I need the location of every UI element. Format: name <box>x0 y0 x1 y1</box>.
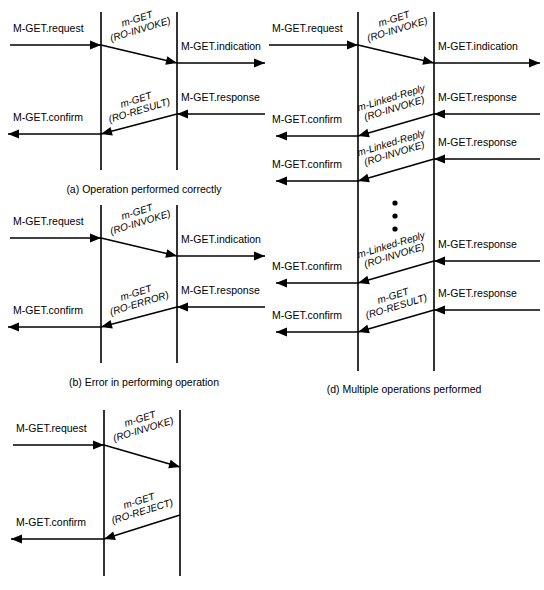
m-get-ro-error-arrowhead <box>101 320 113 329</box>
m-get-ro-invoke-label: m-GET(RO-INVOKE) <box>105 4 171 43</box>
panel-b: M-GET.requestm-GET(RO-INVOKE)M-GET.indic… <box>8 197 265 388</box>
figure-canvas: M-GET.requestm-GET(RO-INVOKE)M-GET.indic… <box>0 0 544 590</box>
m-get-confirm-arrowhead <box>11 535 22 544</box>
m-get-ro-invoke-arrowhead <box>165 56 177 65</box>
m-get-response-label: M-GET.response <box>181 91 260 103</box>
m-get-ro-invoke-arrowhead <box>422 56 434 65</box>
m-get-ro-invoke-line <box>101 238 177 256</box>
m-get-request: M-GET.request <box>10 22 101 49</box>
m-get-indication: M-GET.indication <box>434 40 540 67</box>
m-get-response-4-arrowhead <box>434 306 445 315</box>
m-get-ro-reject: m-GET(RO-REJECT) <box>104 486 180 540</box>
m-get-ro-invoke: m-GET(RO-INVOKE) <box>101 4 177 65</box>
m-get-confirm: M-GET.confirm <box>8 111 101 138</box>
m-get-ro-invoke-line <box>104 445 180 467</box>
m-get-ro-invoke: m-GET(RO-INVOKE) <box>104 404 180 468</box>
m-linked-reply-ro-invoke-3-label: m-Linked-Reply(RO-INVOKE) <box>356 229 430 271</box>
m-get-indication-label: M-GET.indication <box>181 233 261 245</box>
m-get-response: M-GET.response <box>177 284 265 311</box>
panel-d-caption: (d) Multiple operations performed <box>327 383 482 395</box>
m-get-confirm-1-arrowhead <box>276 132 287 141</box>
m-get-response-2-label: M-GET.response <box>438 136 517 148</box>
m-get-response-4-label: M-GET.response <box>438 287 517 299</box>
panel-a-caption: (a) Operation performed correctly <box>66 183 222 195</box>
m-get-confirm-3: M-GET.confirm <box>272 260 358 287</box>
m-get-response-2-arrowhead <box>434 155 445 164</box>
m-get-response-1: M-GET.response <box>434 91 540 118</box>
m-get-indication-arrowhead <box>529 59 540 68</box>
m-get-ro-error: m-GET(RO-ERROR) <box>101 278 177 328</box>
m-linked-reply-ro-invoke-1-arrowhead <box>358 129 370 137</box>
m-get-ro-result-arrowhead <box>101 127 113 136</box>
m-get-response-2: M-GET.response <box>434 136 540 163</box>
m-get-response-arrowhead <box>177 303 188 312</box>
m-get-indication-arrowhead <box>254 59 265 68</box>
m-get-request-arrowhead <box>90 41 101 50</box>
m-get-ro-invoke-arrowhead <box>168 460 180 468</box>
m-get-ro-invoke-label: m-GET(RO-INVOKE) <box>108 404 174 443</box>
m-get-ro-invoke: m-GET(RO-INVOKE) <box>358 4 434 65</box>
m-get-indication: M-GET.indication <box>177 233 265 260</box>
panel-d-continuation-dot <box>392 200 397 205</box>
m-get-request-label: M-GET.request <box>13 22 84 34</box>
m-get-request-label: M-GET.request <box>272 22 343 34</box>
m-get-request: M-GET.request <box>269 22 358 49</box>
panel-d-continuation-dot <box>392 226 397 231</box>
m-linked-reply-ro-invoke-3-arrowhead <box>358 276 370 284</box>
panel-c: M-GET.requestm-GET(RO-INVOKE)m-GET(RO-RE… <box>11 404 180 576</box>
m-get-response-4: M-GET.response <box>434 287 540 314</box>
m-get-confirm-arrowhead <box>8 130 19 139</box>
m-get-ro-invoke-line <box>358 45 434 63</box>
m-get-response-arrowhead <box>177 110 188 119</box>
panel-d-continuation-dot <box>392 213 397 218</box>
m-get-confirm-arrowhead <box>8 323 19 332</box>
panel-d: M-GET.requestm-GET(RO-INVOKE)M-GET.indic… <box>269 4 540 395</box>
m-get-confirm-4: M-GET.confirm <box>272 309 358 336</box>
m-get-confirm-2-arrowhead <box>276 177 287 186</box>
m-get-response: M-GET.response <box>177 91 265 118</box>
m-get-ro-invoke-arrowhead <box>165 249 177 258</box>
m-get-confirm-label: M-GET.confirm <box>13 304 83 316</box>
m-get-ro-result: m-GET(RO-RESULT) <box>358 281 434 333</box>
m-get-response-1-label: M-GET.response <box>438 91 517 103</box>
m-get-response-1-arrowhead <box>434 110 445 119</box>
m-get-ro-invoke-line <box>101 45 177 63</box>
m-get-ro-reject-arrowhead <box>104 531 116 539</box>
m-get-confirm-2-label: M-GET.confirm <box>272 158 342 170</box>
time-sequence-diagram: M-GET.requestm-GET(RO-INVOKE)M-GET.indic… <box>0 0 544 590</box>
m-get-confirm-4-arrowhead <box>276 328 287 337</box>
m-get-indication-label: M-GET.indication <box>438 40 518 52</box>
m-get-confirm-2: M-GET.confirm <box>272 158 358 185</box>
m-get-request-label: M-GET.request <box>13 215 84 227</box>
m-get-indication-label: M-GET.indication <box>181 40 261 52</box>
m-get-ro-result-arrowhead <box>358 325 370 333</box>
m-get-request-arrowhead <box>90 234 101 243</box>
m-linked-reply-ro-invoke-1-label: m-Linked-Reply(RO-INVOKE) <box>356 82 430 124</box>
m-linked-reply-ro-invoke-2-arrowhead <box>358 174 370 182</box>
m-get-request-arrowhead <box>347 41 358 50</box>
m-get-response-label: M-GET.response <box>181 284 260 296</box>
m-get-request-label: M-GET.request <box>16 422 87 434</box>
m-get-confirm-4-label: M-GET.confirm <box>272 309 342 321</box>
m-get-ro-invoke: m-GET(RO-INVOKE) <box>101 197 177 258</box>
m-get-response-3-arrowhead <box>434 257 445 266</box>
m-get-confirm-3-label: M-GET.confirm <box>272 260 342 272</box>
m-get-response-3-label: M-GET.response <box>438 238 517 250</box>
m-get-indication: M-GET.indication <box>177 40 265 67</box>
m-get-ro-invoke-label: m-GET(RO-INVOKE) <box>362 4 428 43</box>
m-get-request-arrowhead <box>93 441 104 450</box>
m-get-request: M-GET.request <box>10 215 101 242</box>
m-get-ro-invoke-label: m-GET(RO-INVOKE) <box>105 197 171 236</box>
panel-b-caption: (b) Error in performing operation <box>69 376 219 388</box>
m-get-confirm-1-label: M-GET.confirm <box>272 113 342 125</box>
m-get-ro-result: m-GET(RO-RESULT) <box>101 85 177 135</box>
m-get-confirm-3-arrowhead <box>276 279 287 288</box>
m-get-confirm: M-GET.confirm <box>11 516 104 543</box>
m-get-confirm-1: M-GET.confirm <box>272 113 358 140</box>
m-get-response-3: M-GET.response <box>434 238 540 265</box>
m-get-confirm: M-GET.confirm <box>8 304 101 331</box>
m-get-confirm-label: M-GET.confirm <box>16 516 86 528</box>
m-get-indication-arrowhead <box>254 252 265 261</box>
m-get-request: M-GET.request <box>13 422 104 449</box>
panel-a: M-GET.requestm-GET(RO-INVOKE)M-GET.indic… <box>8 4 265 195</box>
